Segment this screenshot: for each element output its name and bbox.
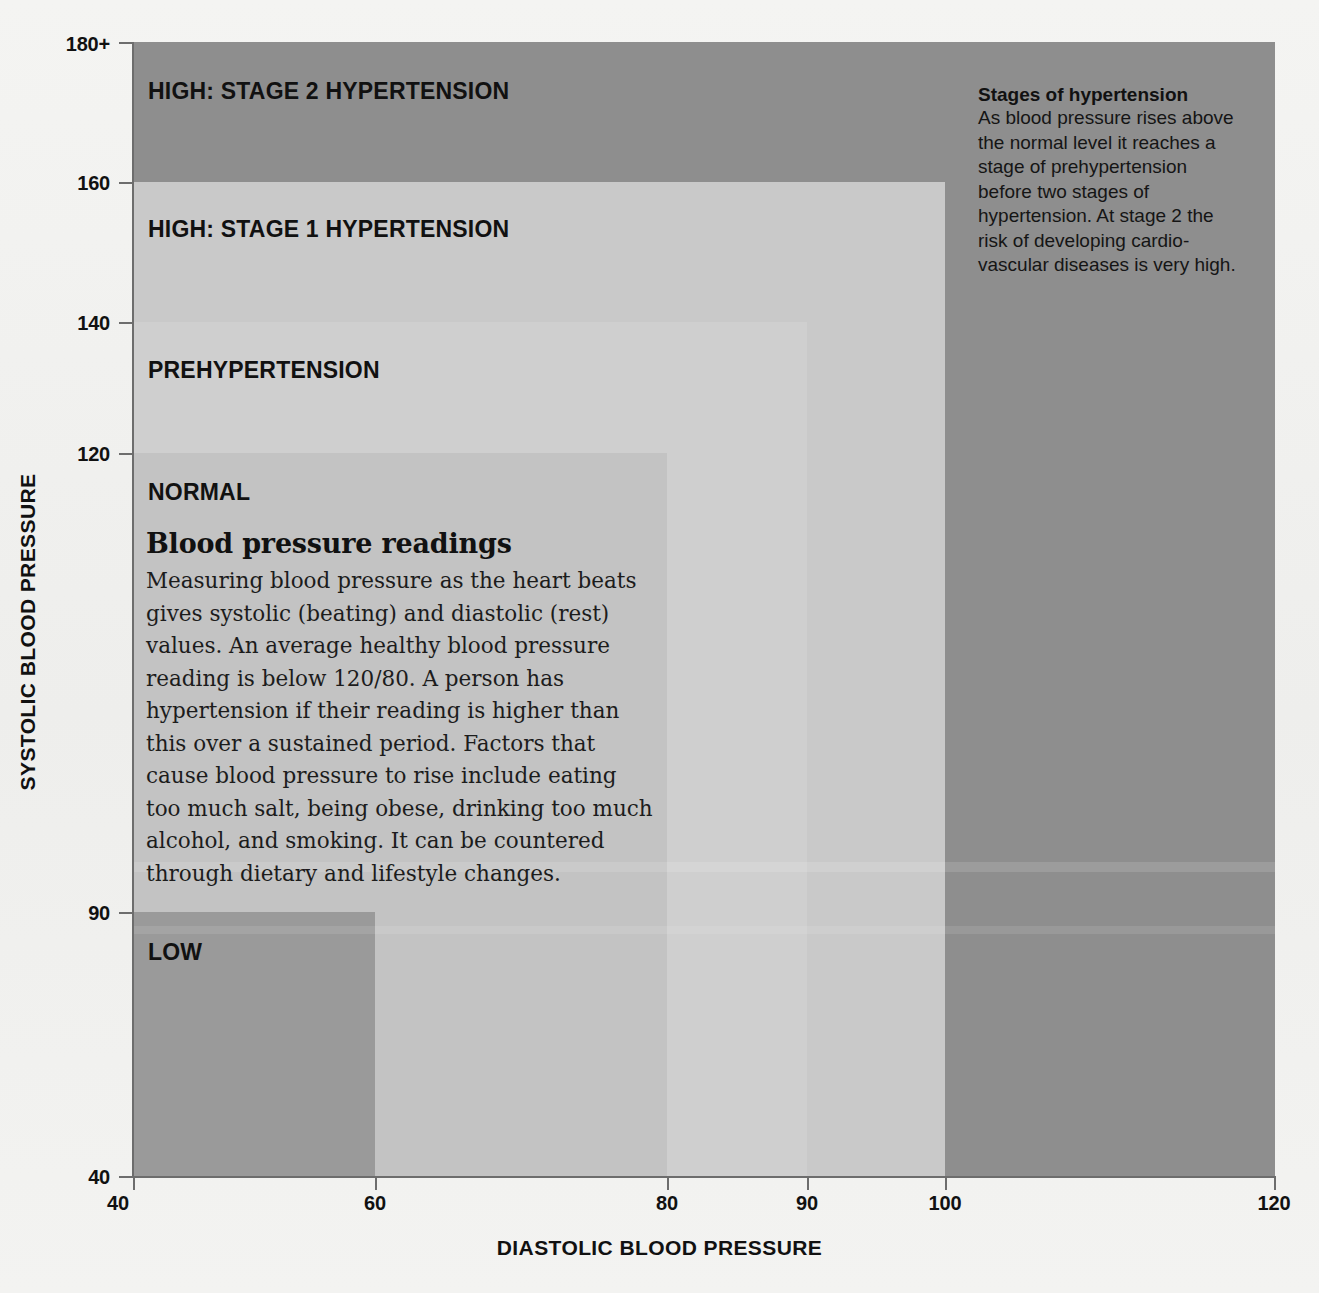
zone-label-stage1: HIGH: STAGE 1 HYPERTENSION (148, 216, 509, 243)
x-tick-mark (133, 1176, 135, 1190)
sidebar-heading: Stages of hypertension (978, 84, 1243, 106)
x-tick-mark (945, 1176, 947, 1190)
x-tick-label: 100 (929, 1192, 962, 1215)
y-tick-label: 160 (77, 172, 110, 195)
x-tick-label: 120 (1258, 1192, 1291, 1215)
x-tick-label: 90 (796, 1192, 818, 1215)
stages-of-hypertension-note: Stages of hypertension As blood pressure… (978, 84, 1243, 278)
y-tick-mark (119, 1176, 133, 1178)
zone-label-normal: NORMAL (148, 479, 250, 506)
x-tick-label: 80 (656, 1192, 678, 1215)
x-tick-mark (807, 1176, 809, 1190)
zone-label-low: LOW (148, 939, 202, 966)
sidebar-body: As blood pressure rises above the normal… (978, 106, 1243, 278)
y-axis-title: SYSTOLIC BLOOD PRESSURE (16, 412, 40, 852)
infographic-root: HIGH: STAGE 2 HYPERTENSION HIGH: STAGE 1… (0, 0, 1319, 1293)
x-tick-mark (667, 1176, 669, 1190)
y-tick-label: 140 (77, 312, 110, 335)
readings-body: Measuring blood pressure as the heart be… (146, 565, 656, 890)
zone-label-stage2: HIGH: STAGE 2 HYPERTENSION (148, 78, 509, 105)
x-tick-label: 40 (107, 1192, 129, 1215)
y-tick-mark (119, 42, 133, 44)
y-tick-mark (119, 453, 133, 455)
y-tick-mark (119, 182, 133, 184)
x-axis-title: DIASTOLIC BLOOD PRESSURE (497, 1236, 822, 1260)
y-tick-mark (119, 322, 133, 324)
y-tick-label: 40 (88, 1166, 110, 1189)
y-tick-label: 180+ (66, 33, 110, 56)
y-tick-label: 120 (77, 443, 110, 466)
zone-label-prehypertension: PREHYPERTENSION (148, 357, 380, 384)
y-tick-mark (119, 912, 133, 914)
blood-pressure-readings-block: Blood pressure readings Measuring blood … (146, 528, 656, 890)
readings-heading: Blood pressure readings (146, 528, 656, 559)
x-axis-line (132, 1176, 1276, 1178)
y-axis-line (132, 42, 134, 1178)
x-tick-mark (1274, 1176, 1276, 1190)
x-tick-mark (375, 1176, 377, 1190)
y-tick-label: 90 (88, 902, 110, 925)
x-tick-label: 60 (364, 1192, 386, 1215)
